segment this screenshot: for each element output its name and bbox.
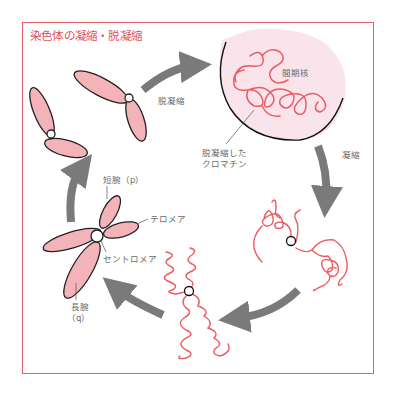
decondense-label: 脱凝縮 (158, 96, 185, 107)
metaphase-arrow (118, 290, 163, 315)
chromosome-cycle-diagram (0, 0, 398, 396)
chromatin-label-line1: 脱凝縮した (202, 148, 247, 159)
coil-arrow (238, 290, 298, 318)
long-arm-label-line2: （q） (67, 313, 90, 324)
condense-label: 凝縮 (342, 150, 360, 161)
condense-arrow (318, 146, 326, 198)
separate-arrow (70, 170, 80, 222)
coiled-chromosome (164, 248, 229, 359)
telomere-label: テロメア (150, 214, 186, 225)
long-arm-label-line1: 長腕 (71, 302, 89, 313)
short-arm-label: 短腕（p） (103, 175, 144, 186)
metaphase-chromosome (41, 193, 140, 303)
condensed-chromosome-pair (25, 65, 151, 161)
interphase-nucleus (220, 29, 346, 144)
nucleus-label: 間期核 (282, 68, 309, 79)
centromere-icon (287, 237, 296, 246)
centromere-label: セントロメア (103, 254, 157, 265)
centromere-icon (185, 287, 194, 296)
partially-condensed-chromosome (254, 200, 347, 291)
decondense-arrow (143, 66, 192, 90)
chromatin-label-line2: クロマチン (202, 159, 247, 170)
